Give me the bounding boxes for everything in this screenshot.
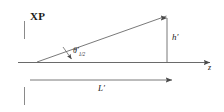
- height-label: h′: [172, 33, 178, 42]
- length-label: L′: [98, 84, 105, 93]
- hypotenuse-line: [37, 16, 167, 62]
- z-axis-label: z: [208, 64, 211, 72]
- angle-pointer-arrow: [63, 47, 72, 59]
- xp-label: XP: [30, 11, 45, 22]
- figure-container: XP θ′1/2 h′ L′ z: [0, 0, 224, 112]
- theta-subscript: 1/2: [79, 51, 85, 57]
- half-angle-label: θ′1/2: [73, 47, 85, 57]
